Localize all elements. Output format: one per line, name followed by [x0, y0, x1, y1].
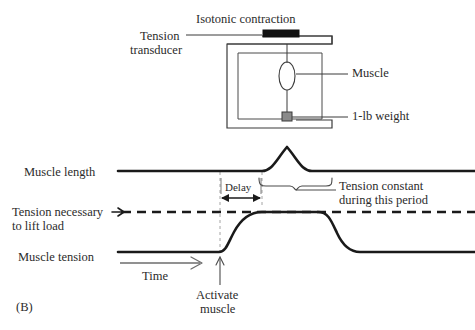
panel-label: (B) — [16, 300, 33, 314]
activate-muscle-line1: Activate — [196, 288, 238, 302]
delay-measure-arrow — [221, 194, 261, 202]
tension-constant-line1: Tension constant — [339, 179, 423, 193]
time-axis-arrow — [120, 257, 202, 269]
muscle-tension-trace — [118, 212, 475, 252]
apparatus-inner-frame — [238, 53, 322, 119]
muscle-tension-label: Muscle tension — [18, 250, 94, 264]
tension-threshold-arrow-icon — [112, 208, 124, 216]
activate-muscle-line2: muscle — [200, 302, 235, 316]
muscle-length-trace — [118, 147, 475, 171]
transducer-label-line2: transducer — [130, 43, 182, 57]
tension-necessary-line2: to lift load — [12, 219, 64, 233]
time-axis-label: Time — [142, 269, 168, 283]
tension-constant-line2: during this period — [339, 193, 428, 207]
tension-constant-brace — [259, 178, 332, 190]
weight-label: 1-lb weight — [352, 109, 409, 123]
delay-label: Delay — [225, 181, 251, 193]
tension-necessary-line1: Tension necessary — [12, 205, 103, 219]
activate-muscle-arrow — [216, 257, 224, 285]
muscle-length-label: Muscle length — [24, 165, 95, 179]
transducer-block-icon — [263, 30, 299, 37]
trace-plot — [112, 147, 475, 285]
weight-block-icon — [282, 112, 292, 121]
muscle-ellipse-icon — [279, 62, 295, 90]
transducer-label-line1: Tension — [140, 29, 179, 43]
muscle-label: Muscle — [352, 66, 389, 80]
apparatus-title: Isotonic contraction — [196, 12, 296, 26]
apparatus-diagram — [186, 30, 348, 128]
